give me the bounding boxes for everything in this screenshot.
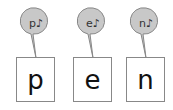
speech-bubble-icon (71, 0, 115, 62)
letter: n (127, 65, 164, 95)
bubble-label: n♪ (124, 17, 168, 30)
card-e: e♪ e (71, 0, 115, 110)
speech-bubble-icon (14, 0, 58, 62)
letter: p (17, 65, 54, 95)
letter-box: p (16, 57, 55, 102)
letter-box: e (73, 57, 112, 102)
card-n: n♪ n (124, 0, 168, 110)
letter-box: n (126, 57, 165, 102)
card-p: p♪ p (14, 0, 58, 110)
letter: e (74, 65, 111, 95)
bubble-label: e♪ (71, 17, 115, 30)
bubble-label: p♪ (14, 17, 58, 30)
speech-bubble-icon (124, 0, 168, 62)
